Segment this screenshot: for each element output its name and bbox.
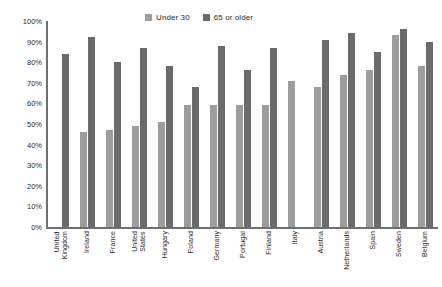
bar-group [178,21,204,227]
bar [288,81,295,227]
bar [236,105,243,227]
bar [80,132,87,227]
x-axis-line [46,227,438,229]
bar [166,66,173,227]
bar-group [126,21,152,227]
bar [426,42,433,227]
bar [374,52,381,227]
y-tick-label: 30% [10,161,42,170]
x-tick-label: Hungary [152,231,178,287]
bar [114,62,121,227]
x-tick-label: Sweden [386,231,412,287]
x-tick-label-text: Hungary [161,231,169,258]
x-tick-label: Italy [282,231,308,287]
bar [400,29,407,227]
bar [418,66,425,227]
y-tick-label: 10% [10,202,42,211]
bar-group [100,21,126,227]
plot-area: 100%90%80%70%60%50%40%30%20%10%0% [46,21,438,227]
bar-groups [48,21,438,227]
y-tick-label: 70% [10,78,42,87]
x-tick-label: Netherlands [334,231,360,287]
x-tick-label-text: United States [131,231,147,252]
bar [314,87,321,227]
bar-group [48,21,74,227]
x-tick-label-text: Netherlands [343,231,351,270]
bar [184,105,191,227]
x-tick-label: Finland [256,231,282,287]
bar [88,37,95,227]
x-tick-label: Germany [204,231,230,287]
x-tick-label: Belgium [412,231,438,287]
y-tick-label: 60% [10,99,42,108]
bar [366,70,373,227]
bar-group [412,21,438,227]
bar-group [230,21,256,227]
bar-group [282,21,308,227]
bar [270,48,277,227]
y-tick-label: 80% [10,58,42,67]
x-tick-label: United Kingdom [48,231,74,287]
bar [218,46,225,227]
bar [106,130,113,227]
x-tick-label-text: Poland [187,231,195,253]
x-tick-label: Ireland [74,231,100,287]
y-tick-label: 50% [10,120,42,129]
bar-group [308,21,334,227]
x-axis-category-labels: United KingdomIrelandFranceUnited States… [48,231,438,287]
bar [132,126,139,227]
x-tick-label-text: Ireland [83,231,91,253]
bar-group [152,21,178,227]
bar [62,54,69,227]
y-tick-label: 0% [10,223,42,232]
bar [210,105,217,227]
bar-group [360,21,386,227]
bar [192,87,199,227]
x-tick-label: United States [126,231,152,287]
bar [392,35,399,227]
bar [244,70,251,227]
x-tick-label: Spain [360,231,386,287]
x-tick-label-text: Spain [369,231,377,249]
bar [140,48,147,227]
y-tick-label: 20% [10,181,42,190]
x-tick-label-text: United Kingdom [53,231,69,259]
bar [340,75,347,227]
x-tick-label-text: Italy [291,231,299,244]
bar [348,33,355,227]
bar-chart: Under 30 65 or older 100%90%80%70%60%50%… [0,0,442,287]
x-tick-label-text: Finland [265,231,273,255]
y-tick-label: 90% [10,37,42,46]
x-tick-label-text: Belgium [421,231,429,257]
x-tick-label: Poland [178,231,204,287]
x-tick-label-text: Portugal [239,231,247,258]
x-tick-label: Austria [308,231,334,287]
x-tick-label-text: Germany [213,231,221,261]
y-tick-label: 40% [10,140,42,149]
bar [322,40,329,227]
bar-group [204,21,230,227]
y-tick-label: 100% [10,17,42,26]
x-tick-label-text: Austria [317,231,325,254]
bar [158,122,165,227]
bar-group [386,21,412,227]
legend-swatch-65-or-older [203,14,210,21]
x-tick-label-text: Sweden [395,231,403,257]
bar-group [334,21,360,227]
bar-group [74,21,100,227]
legend-swatch-under-30 [145,14,152,21]
bar-group [256,21,282,227]
x-tick-label-text: France [109,231,117,253]
bar [262,105,269,227]
x-tick-label: France [100,231,126,287]
x-tick-label: Portugal [230,231,256,287]
